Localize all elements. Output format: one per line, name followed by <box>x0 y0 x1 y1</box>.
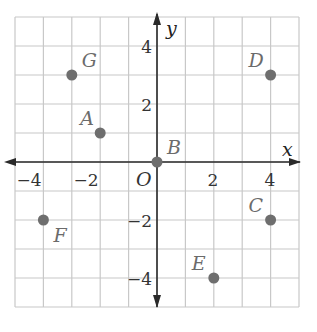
point-label: A <box>78 107 94 129</box>
x-axis-label: x <box>282 138 293 160</box>
y-tick-neg2: −2 <box>127 211 152 231</box>
point-label: C <box>249 194 264 216</box>
point-label: F <box>52 224 67 246</box>
point-marker <box>152 157 163 168</box>
point-marker <box>265 70 276 81</box>
point-marker <box>66 70 77 81</box>
point-label: G <box>82 49 97 71</box>
x-tick-4: 4 <box>265 170 276 190</box>
point-label: B <box>166 136 181 158</box>
coordinate-plane: x y O −4 −2 2 4 4 2 −2 −4 GABDFCE <box>0 0 317 332</box>
point-marker <box>95 128 106 139</box>
point-label: E <box>191 252 206 274</box>
point-a: A <box>78 107 106 139</box>
point-marker <box>208 273 219 284</box>
y-tick-4: 4 <box>141 37 152 57</box>
point-f: F <box>38 215 68 247</box>
point-marker <box>265 215 276 226</box>
y-axis-label: y <box>165 17 177 39</box>
point-g: G <box>66 49 97 81</box>
y-axis-top-arrow <box>153 12 161 25</box>
x-axis-left-arrow <box>4 158 16 166</box>
point-label: D <box>248 49 264 71</box>
y-tick-2: 2 <box>141 95 152 115</box>
point-d: D <box>248 49 277 81</box>
x-tick-2: 2 <box>208 170 219 190</box>
y-tick-neg4: −4 <box>127 269 152 289</box>
x-tick-neg4: −4 <box>16 170 41 190</box>
point-marker <box>38 215 49 226</box>
point-c: C <box>249 194 277 226</box>
point-e: E <box>191 252 220 284</box>
y-axis-bottom-arrow <box>153 295 161 308</box>
x-tick-neg2: −2 <box>73 170 98 190</box>
origin-label: O <box>136 168 152 190</box>
